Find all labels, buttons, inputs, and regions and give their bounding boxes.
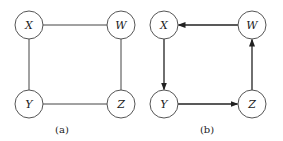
nodes-a: XWYZ	[15, 11, 135, 118]
node-label: X	[24, 19, 34, 32]
node-z: Z	[107, 90, 135, 118]
node-x: X	[150, 11, 178, 39]
diagram-b: XWYZ (b)	[150, 11, 266, 135]
nodes-b: XWYZ	[150, 11, 266, 118]
diagram-canvas: XWYZ (a) XWYZ (b)	[0, 0, 283, 141]
diagram-a: XWYZ (a)	[15, 11, 135, 135]
node-label: X	[159, 19, 169, 32]
caption-b: (b)	[200, 124, 214, 135]
node-y: Y	[150, 90, 178, 118]
node-w: W	[238, 11, 266, 39]
node-label: Z	[247, 98, 256, 111]
node-y: Y	[15, 90, 43, 118]
node-z: Z	[238, 90, 266, 118]
edges-a	[29, 25, 121, 104]
node-label: W	[246, 19, 259, 32]
node-label: Z	[116, 98, 125, 111]
node-x: X	[15, 11, 43, 39]
edges-b	[164, 25, 252, 104]
node-label: W	[115, 19, 128, 32]
caption-a: (a)	[55, 124, 69, 135]
node-w: W	[107, 11, 135, 39]
